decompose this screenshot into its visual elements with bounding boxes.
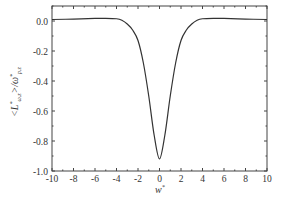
y-tick-labels: 0.0-0.2-0.4-0.6-0.8-1.0 [33,17,48,177]
plot-frame [52,6,267,171]
y-tick-label: -0.6 [33,107,48,117]
x-tick-label: 4 [200,174,205,184]
x-tick-label: -8 [70,174,78,184]
x-tick-label: 0 [157,174,162,184]
x-tick-label: 6 [222,174,227,184]
x-axis-label: w* [155,184,165,195]
x-tick-label: 2 [179,174,184,184]
x-tick-label: 8 [243,174,248,184]
line-chart: -10-8-6-4-20246810 0.0-0.2-0.4-0.6-0.8-1… [0,0,284,206]
x-tick-label: -2 [134,174,142,184]
x-tick-label: 10 [262,174,272,184]
y-axis-ticks [52,6,267,171]
x-axis-ticks [52,6,267,171]
y-tick-label: -0.8 [33,137,48,147]
y-tick-label: -0.2 [33,47,48,57]
y-tick-label: 0.0 [36,17,48,27]
x-tick-labels: -10-8-6-4-20246810 [46,174,272,184]
data-line [52,18,267,159]
x-tick-label: -6 [91,174,99,184]
y-tick-label: -1.0 [33,167,48,177]
x-tick-label: -4 [113,174,121,184]
y-tick-label: -0.4 [33,77,48,87]
y-axis-label: <L*ω,z>/ω*p,z [9,66,22,116]
